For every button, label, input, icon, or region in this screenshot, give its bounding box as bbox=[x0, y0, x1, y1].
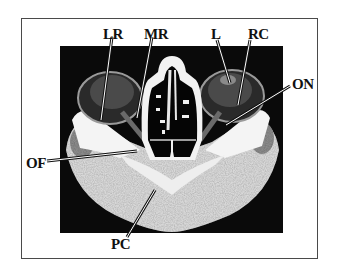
label-optic-foramen: OF bbox=[26, 156, 46, 171]
label-medial-rectus: MR bbox=[144, 27, 168, 42]
label-retrobulbar-compartment: RC bbox=[248, 27, 269, 42]
ct-scan-image bbox=[0, 0, 338, 269]
label-lens: L bbox=[211, 27, 221, 42]
label-posterior-clinoid: PC bbox=[111, 237, 130, 252]
label-lateral-rectus: LR bbox=[103, 27, 123, 42]
label-optic-nerve: ON bbox=[292, 77, 314, 92]
